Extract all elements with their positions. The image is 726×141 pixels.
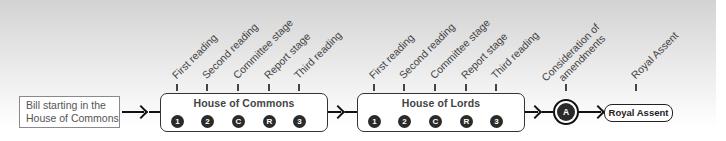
stage-tick (237, 84, 239, 91)
stage-badge-second-reading: 2 (201, 115, 214, 128)
stage-badge-committee-stage: C (232, 115, 245, 128)
start-box-line1: Bill starting in the (26, 99, 119, 112)
stage-tick (434, 84, 436, 91)
stage-tick (298, 84, 300, 91)
connector-line (542, 111, 553, 113)
house-title: House of Lords (358, 97, 524, 109)
stage-tick (565, 84, 567, 91)
stage-tick (465, 84, 467, 91)
stage-badge-report-stage: R (263, 115, 276, 128)
consideration-of-amendments-node: A (553, 99, 579, 125)
stage-badge-first-reading: 1 (171, 115, 184, 128)
stage-badge-second-reading: 2 (398, 115, 411, 128)
stage-tick (268, 84, 270, 91)
stage-tick (495, 84, 497, 91)
stage-badge-third-reading: 3 (490, 115, 503, 128)
stage-badge-third-reading: 3 (293, 115, 306, 128)
stage-tick (206, 84, 208, 91)
stage-tick (373, 84, 375, 91)
stage-tick (176, 84, 178, 91)
stage-badge-first-reading: 1 (368, 115, 381, 128)
stage-tick (635, 84, 637, 91)
amendments-badge: A (557, 103, 575, 121)
royal-assent-box: Royal Assent (604, 104, 673, 122)
stage-badge-report-stage: R (460, 115, 473, 128)
house-of-commons-box: House of Commons 1 2 C R 3 (160, 93, 328, 132)
start-box-line2: House of Commons (26, 112, 119, 125)
stage-badge-committee-stage: C (429, 115, 442, 128)
connector-line (149, 111, 160, 113)
connector-line (345, 111, 357, 113)
house-of-lords-box: House of Lords 1 2 C R 3 (357, 93, 525, 132)
stage-tick (403, 84, 405, 91)
house-title: House of Commons (161, 97, 327, 109)
start-box: Bill starting in the House of Commons (19, 96, 120, 128)
